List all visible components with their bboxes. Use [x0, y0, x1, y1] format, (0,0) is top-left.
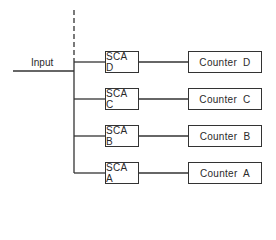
counter-d-box: Counter D	[188, 51, 262, 73]
input-label: Input	[31, 57, 53, 68]
counter-b-box: Counter B	[188, 125, 262, 147]
counter-c-box: Counter C	[188, 88, 262, 110]
sca-b-box: SCA B	[105, 125, 139, 147]
counter-a-box: Counter A	[188, 162, 262, 184]
sca-d-box: SCA D	[105, 51, 139, 73]
sca-a-box: SCA A	[105, 162, 139, 184]
sca-c-box: SCA C	[105, 88, 139, 110]
